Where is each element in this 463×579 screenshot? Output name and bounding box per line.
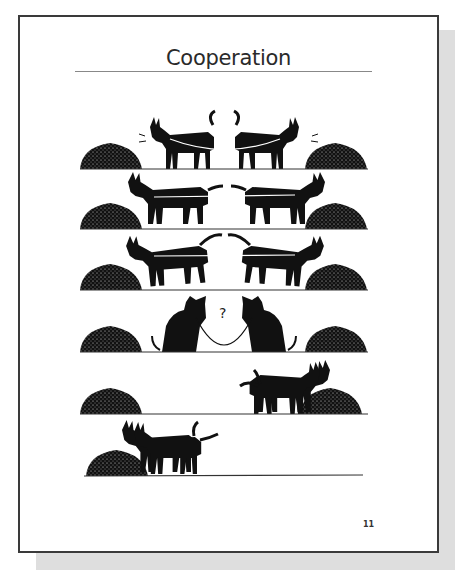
panel-3	[80, 230, 368, 290]
panel-1	[80, 111, 368, 169]
panel-6	[84, 420, 363, 476]
panel-5	[80, 360, 368, 414]
panel-2	[80, 172, 368, 229]
question-mark: ?	[219, 305, 226, 321]
cartoon-strip: ?	[0, 0, 463, 579]
panel-4: ?	[80, 296, 368, 352]
